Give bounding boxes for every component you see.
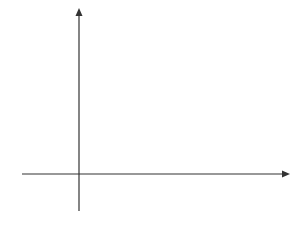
x-axis <box>22 171 290 178</box>
x-axis-arrow-icon <box>282 171 290 178</box>
y-axis <box>76 8 83 211</box>
y-axis-arrow-icon <box>76 8 83 16</box>
chart <box>0 0 302 230</box>
